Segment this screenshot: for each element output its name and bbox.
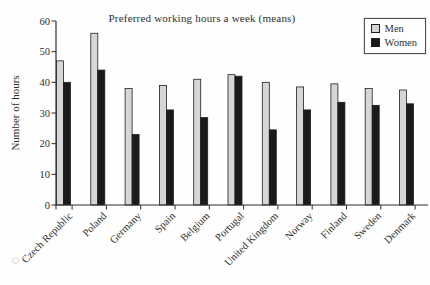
bar-women-8 bbox=[338, 102, 345, 205]
x-category-label: Spain bbox=[153, 210, 178, 235]
bar-men-5 bbox=[228, 75, 235, 205]
x-category-label: Finland bbox=[318, 210, 349, 241]
y-tick-label: 20 bbox=[40, 138, 51, 149]
bar-women-7 bbox=[304, 110, 311, 205]
legend-label-women: Women bbox=[385, 37, 417, 49]
bar-women-4 bbox=[201, 118, 208, 205]
y-axis-title: Number of hours bbox=[9, 75, 21, 150]
y-tick-label: 0 bbox=[45, 200, 50, 211]
bar-women-6 bbox=[269, 130, 276, 205]
y-tick-label: 40 bbox=[40, 77, 51, 88]
legend: Men Women bbox=[364, 18, 426, 54]
chart-title: Preferred working hours a week (means) bbox=[0, 12, 417, 24]
y-tick-label: 50 bbox=[40, 46, 51, 57]
bar-men-1 bbox=[91, 33, 98, 205]
bar-women-9 bbox=[372, 105, 379, 205]
men-swatch-icon bbox=[371, 24, 380, 33]
x-category-label: Czech Republic bbox=[19, 210, 74, 265]
bar-women-2 bbox=[132, 134, 139, 205]
y-tick-label: 10 bbox=[40, 169, 51, 180]
legend-item-women: Women bbox=[371, 37, 417, 49]
x-category-label: Portugal bbox=[213, 210, 246, 243]
x-category-label: Poland bbox=[80, 210, 109, 239]
bar-women-10 bbox=[407, 104, 414, 205]
legend-item-men: Men bbox=[371, 23, 417, 35]
bar-men-6 bbox=[262, 82, 269, 205]
bar-men-10 bbox=[400, 90, 407, 205]
bar-men-2 bbox=[125, 88, 132, 205]
bar-men-7 bbox=[297, 87, 304, 205]
bar-women-1 bbox=[98, 70, 105, 205]
x-category-label: Sweden bbox=[352, 210, 384, 242]
x-category-label: Germany bbox=[108, 210, 144, 246]
bar-men-0 bbox=[57, 61, 64, 205]
scan-artifact bbox=[12, 257, 19, 264]
bar-women-0 bbox=[64, 82, 71, 205]
figure: Preferred working hours a week (means) N… bbox=[0, 0, 430, 285]
bar-men-8 bbox=[331, 84, 338, 205]
bar-men-4 bbox=[194, 79, 201, 205]
bar-men-3 bbox=[159, 85, 166, 205]
x-category-label: Denmark bbox=[382, 210, 418, 246]
legend-label-men: Men bbox=[385, 23, 404, 35]
x-category-label: Norway bbox=[283, 210, 315, 242]
y-tick-label: 30 bbox=[40, 108, 51, 119]
x-category-label: Belgium bbox=[178, 210, 211, 243]
bar-women-3 bbox=[166, 110, 173, 205]
bar-men-9 bbox=[365, 88, 372, 205]
women-swatch-icon bbox=[371, 38, 380, 47]
bar-women-5 bbox=[235, 76, 242, 205]
